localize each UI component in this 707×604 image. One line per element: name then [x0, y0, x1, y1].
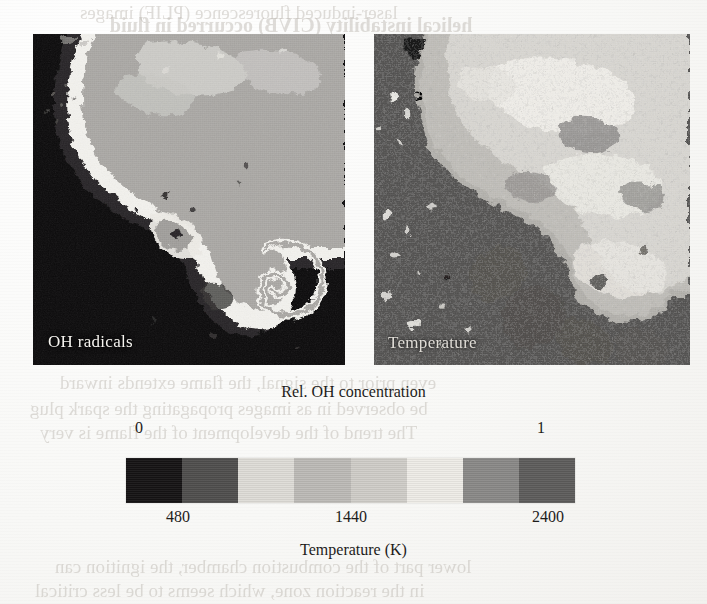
colorbar	[126, 458, 575, 503]
colorbar-band-4	[351, 458, 407, 503]
colorbar-tick-top-0: 0	[130, 419, 148, 437]
panel-oh-radicals: OH radicals	[33, 34, 345, 365]
colorbar-band-grain	[351, 458, 407, 503]
colorbar-band-grain	[126, 458, 182, 503]
colorbar-band-6	[463, 458, 519, 503]
colorbar-band-grain	[407, 458, 463, 503]
colorbar-tick-top-1: 1	[532, 419, 550, 437]
colorbar-band-grain	[238, 458, 294, 503]
colorbar-tick-bottom-1440: 1440	[325, 508, 377, 526]
colorbar-band-grain	[463, 458, 519, 503]
oh-radicals-image	[33, 34, 345, 365]
colorbar-tick-bottom-480: 480	[152, 508, 204, 526]
colorbar-band-grain	[294, 458, 350, 503]
colorbar-band-1	[182, 458, 238, 503]
colorbar-band-5	[407, 458, 463, 503]
colorbar-band-2	[238, 458, 294, 503]
colorbar-band-0	[126, 458, 182, 503]
temperature-image	[374, 34, 690, 365]
colorbar-axis-title: Temperature (K)	[0, 541, 707, 559]
colorbar-tick-bottom-2400: 2400	[522, 508, 574, 526]
colorbar-band-7	[519, 458, 575, 503]
colorbar-band-grain	[182, 458, 238, 503]
figure-container: laser-induced fluorescence (PLIF) images…	[0, 0, 707, 604]
colorbar-top-caption: Rel. OH concentration	[0, 383, 707, 401]
panel-temperature: Temperature	[374, 34, 690, 365]
colorbar-band-grain	[519, 458, 575, 503]
colorbar-band-3	[294, 458, 350, 503]
